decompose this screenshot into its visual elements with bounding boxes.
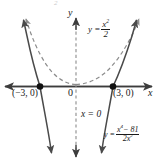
curve-parabola-dashed xyxy=(26,19,139,85)
equation-label-parabola: y =x22 xyxy=(88,20,111,39)
intercept-label-right: (3, 0) xyxy=(113,89,134,99)
rational-lhs: y = xyxy=(104,130,115,139)
equation-label-rational: y =x4− 812x2 xyxy=(104,126,140,143)
parabola-fraction: x22 xyxy=(101,20,110,39)
y-axis-label: y xyxy=(68,8,72,18)
vertical-asymptote-label: x = 0 xyxy=(81,110,101,120)
parabola-lhs: y = xyxy=(88,24,100,34)
x-axis-label: x xyxy=(148,88,152,98)
intercept-label-left: (−3, 0) xyxy=(12,89,38,99)
origin-label: 0 xyxy=(68,88,73,98)
rational-denominator: 2x2 xyxy=(116,135,139,143)
parabola-numerator-exponent: 2 xyxy=(106,18,109,24)
rational-fraction: x4− 812x2 xyxy=(116,126,139,143)
rational-denominator-exponent: 2 xyxy=(130,133,132,138)
math-graph-figure: 2 y x 0 (−3, 0) (3, 0) x = 0 y =x22 y =x… xyxy=(0,0,157,163)
parabola-denominator: 2 xyxy=(101,30,110,39)
cropped-superscript-artifact: 2 xyxy=(54,0,58,7)
